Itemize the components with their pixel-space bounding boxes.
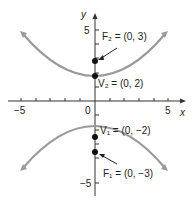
vertex-v1: [92, 134, 98, 140]
focus-f1: [92, 149, 98, 155]
x-tick-0: 0: [85, 105, 91, 116]
x-tick-5: 5: [165, 105, 171, 116]
f2-label: F₂ = (0, 3): [102, 31, 147, 42]
v2-label: V₂ = (0, 2): [98, 78, 143, 89]
x-tick-neg5: −5: [14, 105, 26, 116]
y-axis-arrow-icon: [93, 13, 98, 19]
y-tick-neg5: −5: [80, 178, 92, 189]
y-ticks: [95, 30, 99, 183]
v1-label: V₁ = (0, −2): [100, 125, 151, 136]
arrow-icon: [99, 154, 105, 158]
focus-f2: [92, 58, 98, 64]
y-axis-label: y: [80, 9, 87, 20]
x-axis-arrow-icon: [180, 99, 186, 104]
hyperbola-chart: y x −5 0 5 5 −5 F₂ = (0, 3) V₂ = (0, 2) …: [0, 0, 194, 203]
x-axis-label: x: [179, 107, 186, 118]
f1-label: F₁ = (0, −3): [103, 168, 153, 179]
y-tick-5: 5: [84, 25, 90, 36]
